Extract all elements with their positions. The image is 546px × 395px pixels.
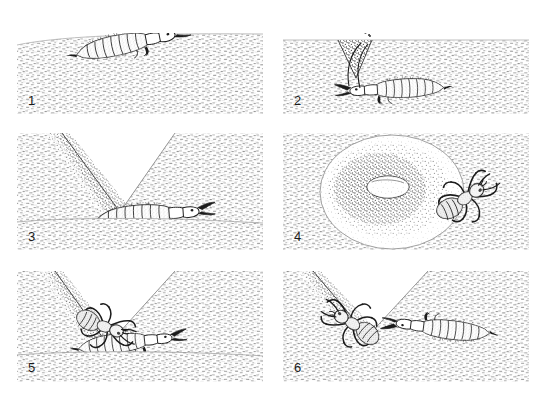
six-panel-illustration-plate: 1 xyxy=(0,0,546,395)
panel-1-number: 1 xyxy=(28,93,35,108)
panel-4: 4 xyxy=(283,133,529,250)
panel-3-number: 3 xyxy=(28,229,35,244)
panel-2-number: 2 xyxy=(294,93,301,108)
panel-6-number: 6 xyxy=(294,360,301,375)
panel-3: 3 xyxy=(17,133,263,250)
panel-5: 5 xyxy=(17,271,263,382)
illustration-figure: 1 xyxy=(0,0,546,395)
panel-5-number: 5 xyxy=(28,360,35,375)
panel-6: 6 xyxy=(283,271,529,382)
panel-4-number: 4 xyxy=(294,229,301,244)
